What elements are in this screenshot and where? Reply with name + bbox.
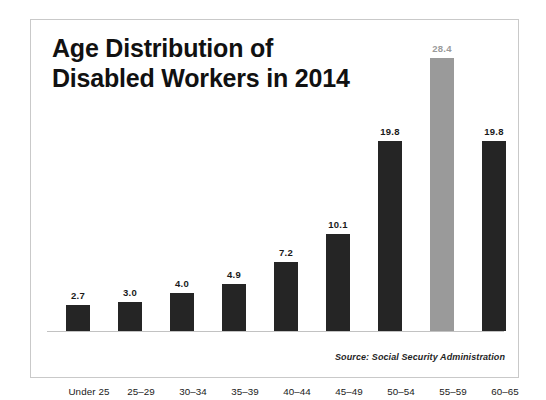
- bar-value-label: 3.0: [104, 287, 156, 298]
- bar-value-label: 10.1: [312, 219, 364, 230]
- bar-value-label: 2.7: [52, 290, 104, 301]
- bar: [170, 293, 194, 331]
- bar-value-label: 19.8: [364, 126, 416, 137]
- bar: [430, 58, 454, 331]
- bar-value-label: 7.2: [260, 247, 312, 258]
- bar-group: 2.7: [52, 50, 104, 331]
- bar-value-label: 4.9: [208, 269, 260, 280]
- plot-area: 2.73.04.04.97.210.119.828.419.8 Under 25…: [45, 50, 508, 377]
- bars-layer: 2.73.04.04.97.210.119.828.419.8: [45, 50, 508, 331]
- bar-group: 19.8: [468, 50, 520, 331]
- x-axis-label: 35–39: [216, 386, 274, 397]
- bar: [66, 305, 90, 331]
- bar: [326, 234, 350, 331]
- bar-group: 19.8: [364, 50, 416, 331]
- x-axis-label: 25–29: [112, 386, 170, 397]
- bar: [222, 284, 246, 331]
- bar: [118, 302, 142, 331]
- bar: [274, 262, 298, 331]
- bar-value-label: 4.0: [156, 278, 208, 289]
- bar-group: 3.0: [104, 50, 156, 331]
- x-axis-label: 60–65: [476, 386, 534, 397]
- x-axis-label: 50–54: [372, 386, 430, 397]
- bar-group: 4.0: [156, 50, 208, 331]
- x-axis-label: Under 25: [60, 386, 118, 397]
- bar-group: 28.4: [416, 50, 468, 331]
- bar-group: 4.9: [208, 50, 260, 331]
- x-axis-label: 55–59: [424, 386, 482, 397]
- x-axis-label: 45–49: [320, 386, 378, 397]
- bar-group: 10.1: [312, 50, 364, 331]
- bar: [482, 141, 506, 331]
- bar-group: 7.2: [260, 50, 312, 331]
- source-note: Source: Social Security Administration: [335, 352, 505, 362]
- bar-value-label: 28.4: [416, 43, 468, 54]
- x-axis-label: 40–44: [268, 386, 326, 397]
- bar-value-label: 19.8: [468, 126, 520, 137]
- chart-card: Age Distribution of Disabled Workers in …: [30, 19, 519, 378]
- x-axis-labels: Under 2525–2930–3435–3940–4445–4950–5455…: [59, 386, 498, 400]
- bar: [378, 141, 402, 331]
- x-axis-label: 30–34: [164, 386, 222, 397]
- x-axis-line: [47, 331, 504, 332]
